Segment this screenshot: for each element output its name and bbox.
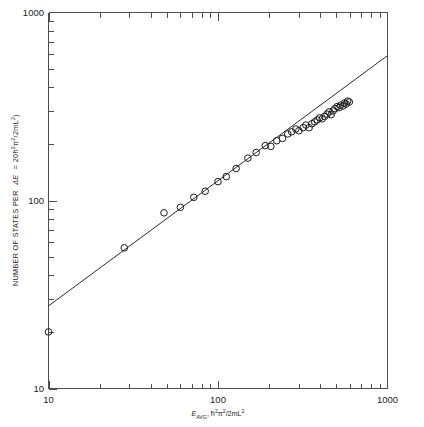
power-law-fit-line [49, 56, 388, 306]
data-point [215, 178, 222, 185]
plot-frame [49, 13, 388, 389]
data-point [202, 188, 209, 195]
tick-marks [49, 13, 381, 390]
data-points [45, 98, 352, 335]
y-axis-title-delta-e: ΔE [11, 175, 20, 186]
y-axis-title-equals: = 20ħ [11, 149, 20, 169]
x-axis-title-rest: , ħ [207, 409, 215, 418]
y-tick-label-1000: 1000 [23, 7, 44, 18]
y-axis-close-paren: ) [11, 114, 20, 117]
x-axis-title-avg: AVG [196, 414, 207, 420]
data-point [284, 131, 291, 138]
x-tick-label-100: 100 [210, 394, 226, 405]
log-log-scatter-plot: 1000 100 10 10 100 1000 NUMBER OF STATES… [0, 0, 424, 427]
y-axis-denominator: /2mL [11, 120, 20, 137]
figure-container: 1000 100 10 10 100 1000 NUMBER OF STATES… [0, 0, 424, 427]
x-axis-denominator: /2mL [226, 409, 242, 418]
x-tick-label-1000: 1000 [377, 394, 398, 405]
y-axis-title-text: NUMBER OF STATES PER [11, 190, 20, 286]
y-axis-title: NUMBER OF STATES PER ΔE = 20ħ2π2/2mL2) [10, 114, 20, 286]
fit-line-group [49, 56, 388, 306]
tick-labels: 1000 100 10 10 100 1000 [23, 7, 398, 405]
x-axis-title-group: EAVG, ħ2π2/2mL2 [192, 408, 245, 420]
x-axis-l-exp: 2 [242, 408, 245, 414]
data-point [161, 210, 168, 217]
x-axis-title: EAVG, ħ2π2/2mL2 [192, 408, 245, 420]
y-tick-label-10: 10 [33, 383, 44, 394]
x-tick-label-10: 10 [43, 394, 54, 405]
y-axis-title-group: NUMBER OF STATES PER ΔE = 20ħ2π2/2mL2) [10, 114, 20, 286]
y-tick-label-100: 100 [28, 195, 44, 206]
